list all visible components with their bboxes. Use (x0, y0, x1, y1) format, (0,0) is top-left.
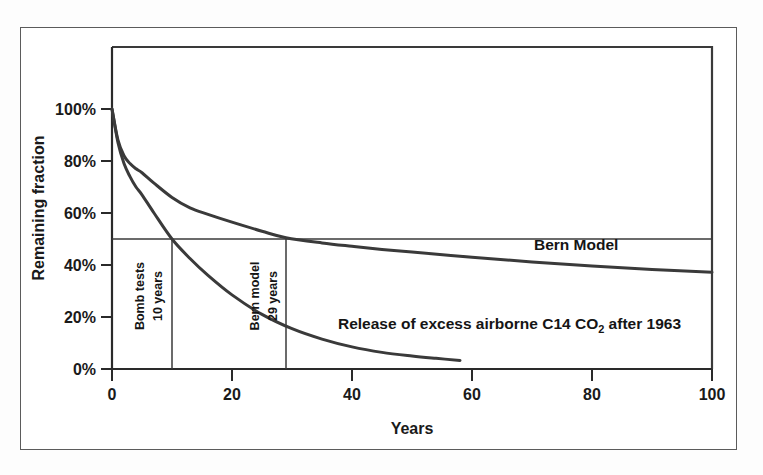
y-tick-label-100: 100% (55, 101, 96, 118)
chart-svg: 100% 80% 60% 40% 20% 0% 0 20 40 60 80 10… (0, 0, 763, 475)
series-line-bern-model (112, 109, 712, 272)
x-tick-label-40: 40 (343, 386, 361, 403)
marker-label-bomb-tests-line2: 10 years (151, 271, 165, 321)
marker-label-bern-model-line1: Bern model (248, 262, 262, 331)
x-tick-label-60: 60 (463, 386, 481, 403)
x-tick-label-0: 0 (108, 386, 117, 403)
x-tick-label-80: 80 (583, 386, 601, 403)
marker-label-bomb-tests-line1: Bomb tests (133, 262, 147, 330)
y-tick-label-80: 80% (64, 153, 96, 170)
y-tick-label-0: 0% (73, 361, 96, 378)
annotation-c14-release: Release of excess airborne C14 CO2 after… (338, 315, 681, 335)
x-tick-label-20: 20 (223, 386, 241, 403)
reference-lines (112, 239, 712, 369)
x-axis-title: Years (391, 420, 434, 437)
x-axis-ticks (112, 369, 712, 381)
figure-container: 100% 80% 60% 40% 20% 0% 0 20 40 60 80 10… (0, 0, 763, 475)
y-tick-label-20: 20% (64, 309, 96, 326)
annotation-c14-part2: after 1963 (604, 315, 681, 332)
annotation-c14-part1: Release of excess airborne C14 CO (338, 315, 598, 332)
chart-plot-area: 100% 80% 60% 40% 20% 0% 0 20 40 60 80 10… (0, 0, 763, 475)
y-axis-title: Remaining fraction (30, 136, 47, 281)
y-axis-ticks (101, 109, 112, 369)
y-tick-label-40: 40% (64, 257, 96, 274)
annotation-bern-model: Bern Model (534, 236, 618, 253)
y-tick-label-60: 60% (64, 205, 96, 222)
marker-label-bern-model-line2: 29 years (266, 271, 280, 321)
x-tick-label-100: 100 (699, 386, 726, 403)
